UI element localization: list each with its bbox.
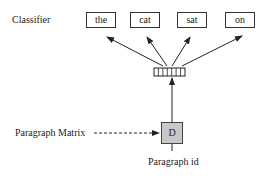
paragraph-id-label: Paragraph id [148,157,199,167]
hidden-vector [154,68,185,76]
paragraph-vector-box: D [161,122,183,144]
arrow-to-the [107,37,163,66]
word-box-sat: sat [177,12,207,28]
word-box-cat: cat [130,12,160,28]
word-box-on: on [225,12,255,28]
arrow-to-sat [172,37,190,66]
classifier-label: Classifier [12,15,50,25]
word-box-the: the [86,12,116,28]
arrow-to-cat [147,37,167,66]
paragraph-matrix-label: Paragraph Matrix [15,128,85,138]
arrow-to-on [182,36,242,66]
